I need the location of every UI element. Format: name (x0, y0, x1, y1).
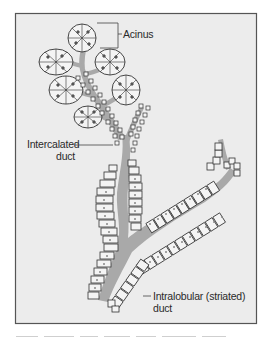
duct-diagram (0, 0, 271, 337)
caption-illegible (16, 328, 256, 334)
acinus-upper-left (39, 49, 73, 75)
label-intercalated-line1: Intercalated (27, 138, 79, 150)
label-acinus: Acinus (123, 28, 153, 40)
label-intercalated-line2: duct (56, 150, 75, 162)
acinus-right (112, 75, 140, 105)
acinus-top (68, 24, 96, 52)
label-intralobular-line2: duct (153, 302, 172, 314)
acinus-upper-right (95, 49, 125, 75)
label-intralobular-line1: Intralobular (striated) (153, 290, 245, 302)
acinus-lower (74, 106, 102, 128)
